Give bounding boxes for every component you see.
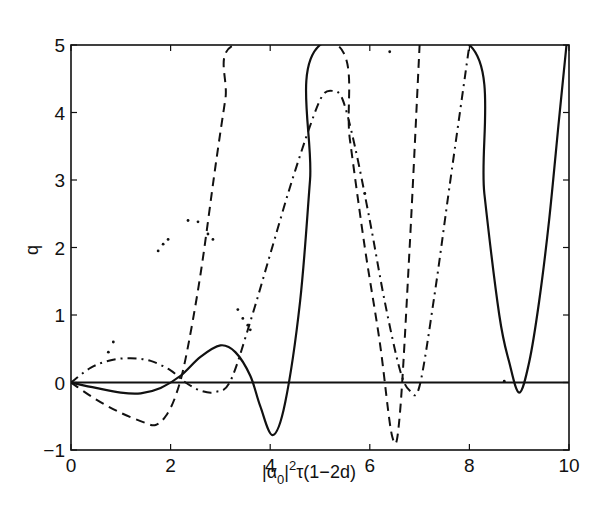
dotted-series-point bbox=[107, 351, 110, 354]
dotted-series-point bbox=[241, 317, 244, 320]
dotted-series-point bbox=[197, 220, 200, 223]
dotted-series-point bbox=[249, 328, 252, 331]
dotted-series-point bbox=[207, 233, 210, 236]
axis-ticks: 0246810−1012345 bbox=[43, 35, 579, 476]
dash-dot-series-line bbox=[71, 45, 469, 395]
y-tick-label: 0 bbox=[54, 373, 65, 394]
y-axis-label: q bbox=[22, 245, 42, 255]
dotted-series-point bbox=[212, 238, 215, 241]
dotted-series-point bbox=[112, 341, 115, 344]
dotted-series-point bbox=[246, 324, 249, 327]
x-tick-label: 0 bbox=[66, 455, 77, 476]
x-tick-label: 8 bbox=[464, 455, 475, 476]
dotted-series-point bbox=[162, 243, 165, 246]
x-tick-label: 6 bbox=[365, 455, 376, 476]
x-tick-label: 10 bbox=[558, 455, 579, 476]
dotted-series-point bbox=[157, 249, 160, 252]
dotted-series-point bbox=[187, 219, 190, 222]
x-axis-label: |α0|2τ(1−2d) bbox=[262, 458, 356, 487]
x-tick-label: 2 bbox=[165, 455, 176, 476]
y-tick-label: 2 bbox=[54, 238, 65, 259]
plot-frame bbox=[71, 45, 569, 450]
y-tick-label: −1 bbox=[43, 440, 65, 461]
dotted-series-point bbox=[167, 238, 170, 241]
y-tick-label: 5 bbox=[54, 35, 65, 56]
y-tick-label: 3 bbox=[54, 170, 65, 191]
solid-series-line bbox=[71, 27, 567, 435]
dotted-series-point bbox=[388, 50, 391, 53]
y-tick-label: 1 bbox=[54, 305, 65, 326]
y-tick-label: 4 bbox=[54, 103, 65, 124]
dotted-series-point bbox=[363, 192, 366, 195]
dotted-series-point bbox=[236, 308, 239, 311]
chart: 0246810−1012345 q |α0|2τ(1−2d) bbox=[0, 0, 605, 522]
series-layer bbox=[71, 27, 567, 444]
